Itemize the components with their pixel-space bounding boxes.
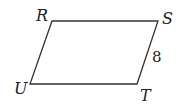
vertex-label-s: S: [162, 9, 173, 28]
vertex-label-t: T: [140, 86, 152, 105]
parallelogram-diagram: R S T U 8: [0, 0, 193, 109]
side-length-st: 8: [152, 48, 162, 66]
vertex-label-r: R: [35, 6, 48, 25]
vertex-label-u: U: [14, 79, 28, 98]
parallelogram-rstu: [30, 21, 158, 84]
